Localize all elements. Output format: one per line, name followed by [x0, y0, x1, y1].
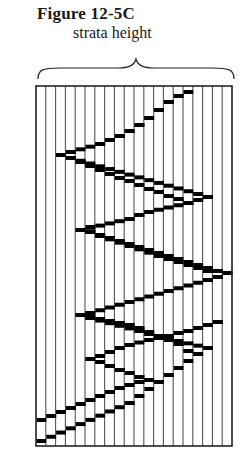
weaving-draft-diagram: [0, 0, 243, 454]
brace-icon: [38, 59, 234, 79]
